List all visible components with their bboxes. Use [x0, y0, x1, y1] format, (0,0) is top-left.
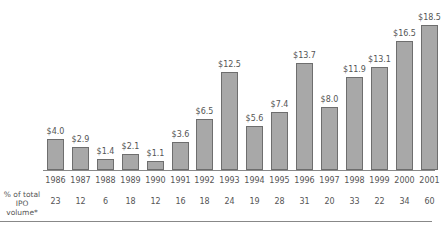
value-label-1994: $5.6 [240, 114, 270, 123]
value-label-1997: $8.0 [315, 95, 345, 104]
bar-1993 [221, 72, 238, 170]
bar-1992 [196, 119, 213, 170]
value-label-1990: $1.1 [141, 149, 171, 158]
bar-1994 [246, 126, 263, 170]
value-label-1991: $3.6 [166, 130, 196, 139]
value-label-1995: $7.4 [265, 100, 295, 109]
value-label-1996: $13.7 [290, 51, 320, 60]
bottom-divider [0, 221, 432, 222]
bar-1988 [97, 159, 114, 170]
bar-2000 [396, 41, 413, 170]
bar-1995 [271, 112, 288, 170]
bar-1998 [346, 77, 363, 170]
value-label-1998: $11.9 [340, 65, 370, 74]
bar-1990 [147, 161, 164, 170]
bar-1996 [296, 63, 313, 170]
x-axis-baseline [43, 170, 435, 171]
bar-1997 [321, 107, 338, 170]
value-label-1993: $12.5 [215, 60, 245, 69]
bar-1991 [172, 142, 189, 170]
bar-1999 [371, 67, 388, 170]
value-label-1987: $2.9 [66, 135, 96, 144]
bar-1989 [122, 154, 139, 170]
pct-value-2001: 60 [415, 197, 445, 206]
value-label-2000: $16.5 [390, 29, 420, 38]
value-label-1999: $13.1 [365, 55, 395, 64]
pct-row-label-line1: % of total [2, 190, 42, 199]
value-label-1992: $6.5 [190, 107, 220, 116]
pct-row-label: % of total IPO volume* [2, 190, 42, 217]
pct-row-label-line2: IPO volume* [2, 199, 42, 217]
bar-1986 [47, 139, 64, 170]
value-label-2001: $18.5 [415, 13, 445, 22]
x-tick-2001: 2001 [415, 176, 445, 185]
bar-1987 [72, 147, 89, 170]
bar-2001 [421, 25, 438, 170]
